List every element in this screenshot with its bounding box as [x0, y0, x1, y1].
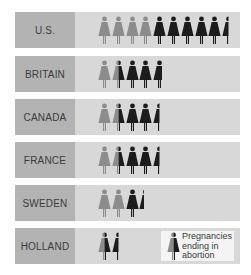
woman-figure-icon — [181, 16, 194, 44]
woman-figure-icon — [98, 146, 111, 174]
woman-figure-icon — [98, 16, 111, 44]
woman-figure-icon — [139, 16, 152, 44]
country-row-france: FRANCE — [15, 142, 240, 178]
woman-figure-icon — [112, 16, 125, 44]
legend-label: Pregnanciesending inabortion — [182, 232, 232, 261]
woman-figure-icon — [126, 146, 139, 174]
country-row-canada: CANADA — [15, 99, 240, 135]
country-label: FRANCE — [15, 142, 75, 178]
woman-figure-icon — [153, 103, 160, 131]
figure-strip — [98, 146, 160, 174]
woman-figure-icon — [208, 16, 221, 44]
woman-figure-icon — [139, 189, 144, 217]
figure-strip — [98, 60, 162, 88]
country-label: U.S. — [15, 12, 75, 48]
woman-figure-icon — [98, 189, 111, 217]
country-label: HOLLAND — [15, 228, 75, 264]
country-row-us: U.S. — [15, 12, 240, 48]
country-row-holland: HOLLAND Pregnanciesending inabortion — [15, 228, 240, 264]
woman-figure-icon — [167, 16, 180, 44]
pictogram-bar — [75, 142, 240, 178]
woman-figure-icon — [112, 146, 125, 174]
country-label: CANADA — [15, 99, 75, 135]
woman-figure-icon — [126, 16, 139, 44]
pictogram-bar — [75, 185, 240, 221]
woman-figure-icon — [112, 103, 125, 131]
country-label: BRITAIN — [15, 56, 75, 92]
figure-strip — [98, 232, 119, 260]
legend: Pregnanciesending inabortion — [161, 231, 234, 261]
woman-figure-icon — [139, 103, 152, 131]
woman-figure-icon — [222, 16, 229, 44]
figure-strip — [98, 189, 144, 217]
country-row-sweden: SWEDEN — [15, 185, 240, 221]
woman-figure-icon — [153, 16, 166, 44]
woman-figure-icon — [153, 146, 160, 174]
pictogram-bar — [75, 12, 240, 48]
legend-woman-icon — [167, 232, 180, 260]
woman-figure-icon — [126, 103, 139, 131]
country-label: SWEDEN — [15, 185, 75, 221]
woman-figure-icon — [98, 103, 111, 131]
woman-figure-icon — [139, 60, 152, 88]
woman-figure-icon — [112, 189, 125, 217]
woman-figure-icon — [98, 232, 111, 260]
woman-figure-icon — [98, 60, 111, 88]
woman-figure-icon — [153, 60, 162, 88]
country-row-britain: BRITAIN — [15, 56, 240, 92]
figure-strip — [98, 16, 229, 44]
woman-figure-icon — [112, 60, 125, 88]
pictogram-bar — [75, 99, 240, 135]
woman-figure-icon — [126, 60, 139, 88]
figure-strip — [98, 103, 160, 131]
woman-figure-icon — [112, 232, 119, 260]
pictogram-bar — [75, 56, 240, 92]
pictogram-bar: Pregnanciesending inabortion — [75, 228, 240, 264]
woman-figure-icon — [195, 16, 208, 44]
woman-figure-icon — [126, 189, 139, 217]
woman-figure-icon — [139, 146, 152, 174]
